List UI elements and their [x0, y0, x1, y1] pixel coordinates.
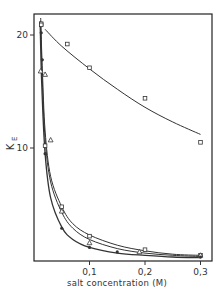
open-square-marker — [143, 96, 147, 100]
open-triangle-marker — [87, 240, 92, 244]
y-axis-label-sub: E — [11, 137, 19, 141]
filled-circle-marker — [44, 152, 47, 155]
x-tick-label: 0,2 — [138, 267, 152, 277]
y-tick-label: 10 — [17, 143, 29, 153]
series-curve — [41, 21, 201, 256]
filled-circle-marker — [40, 31, 43, 34]
series-curve — [41, 18, 201, 255]
open-square-marker — [43, 144, 47, 148]
x-tick-label: 0,1 — [82, 267, 96, 277]
open-square-marker — [88, 234, 92, 238]
data-markers — [38, 22, 203, 259]
filled-circle-marker — [199, 255, 202, 258]
series-curve — [40, 21, 200, 257]
open-square-marker — [199, 141, 203, 145]
x-tick-label: 0,3 — [193, 267, 207, 277]
filled-circle-marker — [41, 58, 44, 61]
filled-circle-marker — [88, 246, 91, 249]
filled-circle-marker — [116, 250, 119, 253]
filled-circle-marker — [60, 227, 63, 230]
chart: 1020 0,10,20,3 K E salt concentration (M… — [0, 0, 223, 303]
open-triangle-marker — [48, 137, 53, 141]
open-triangle-marker — [43, 72, 48, 76]
open-square-marker — [39, 23, 43, 27]
fitted-curves — [40, 18, 200, 258]
x-axis-ticks: 0,10,20,3 — [82, 261, 207, 277]
open-square-marker — [66, 42, 70, 46]
y-axis-ticks: 1020 — [17, 30, 34, 153]
y-axis-label-main: K — [5, 143, 16, 150]
x-axis-label: salt concentration (M) — [67, 278, 167, 288]
open-square-marker — [88, 66, 92, 70]
open-square-marker — [143, 248, 147, 252]
y-tick-label: 20 — [17, 30, 29, 40]
